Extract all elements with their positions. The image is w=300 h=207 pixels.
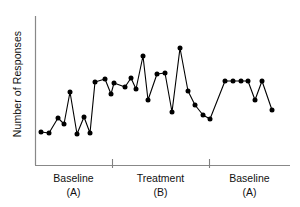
data-point bbox=[270, 108, 275, 113]
data-point bbox=[82, 115, 87, 120]
phase-label-baseline-a2: Baseline bbox=[229, 172, 269, 185]
data-point bbox=[193, 103, 198, 108]
data-point bbox=[88, 131, 93, 136]
data-point bbox=[155, 72, 160, 77]
data-point bbox=[68, 90, 73, 95]
phase-divider-ticks bbox=[113, 159, 210, 168]
data-point bbox=[39, 130, 44, 135]
data-point-markers bbox=[39, 46, 275, 137]
data-point bbox=[47, 131, 52, 136]
data-point bbox=[112, 81, 117, 86]
data-point bbox=[253, 98, 258, 103]
phase-sublabel-treatment-b: (B) bbox=[153, 185, 167, 199]
aba-reversal-design-chart: Number of Responses Baseline (A) Treatme… bbox=[0, 0, 300, 207]
phase-block-baseline-a2: Baseline (A) bbox=[209, 172, 290, 206]
data-point bbox=[201, 113, 206, 118]
phase-label-treatment-b: Treatment bbox=[137, 172, 184, 185]
data-point bbox=[62, 122, 67, 127]
data-point bbox=[141, 54, 146, 59]
data-point bbox=[208, 117, 213, 122]
phase-block-treatment-b: Treatment (B) bbox=[112, 172, 209, 206]
phase-sublabel-baseline-a1: (A) bbox=[67, 185, 81, 199]
data-point bbox=[231, 79, 236, 84]
data-point bbox=[178, 46, 183, 51]
data-point bbox=[186, 89, 191, 94]
phase-block-baseline-a1: Baseline (A) bbox=[35, 172, 112, 206]
data-point bbox=[134, 87, 139, 92]
data-point bbox=[163, 71, 168, 76]
data-point bbox=[129, 76, 134, 81]
data-point bbox=[109, 92, 114, 97]
data-point bbox=[246, 79, 251, 84]
phase-label-row: Baseline (A) Treatment (B) Baseline (A) bbox=[35, 172, 290, 206]
data-point bbox=[223, 79, 228, 84]
data-point bbox=[239, 79, 244, 84]
data-point bbox=[75, 132, 80, 137]
data-point bbox=[146, 98, 151, 103]
data-point bbox=[260, 79, 265, 84]
data-point bbox=[93, 80, 98, 85]
data-point bbox=[170, 110, 175, 115]
phase-label-baseline-a1: Baseline bbox=[53, 172, 93, 185]
phase-sublabel-baseline-a2: (A) bbox=[242, 185, 256, 199]
data-point bbox=[103, 77, 108, 82]
data-point bbox=[56, 116, 61, 121]
data-point bbox=[123, 85, 128, 90]
data-line bbox=[41, 48, 272, 134]
